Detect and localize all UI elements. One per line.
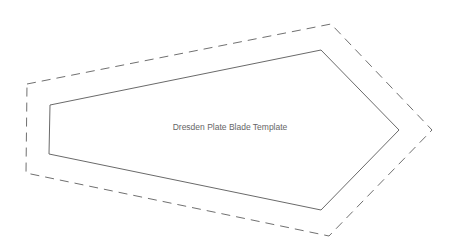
template-title-label: Dresden Plate Blade Template	[0, 122, 460, 132]
